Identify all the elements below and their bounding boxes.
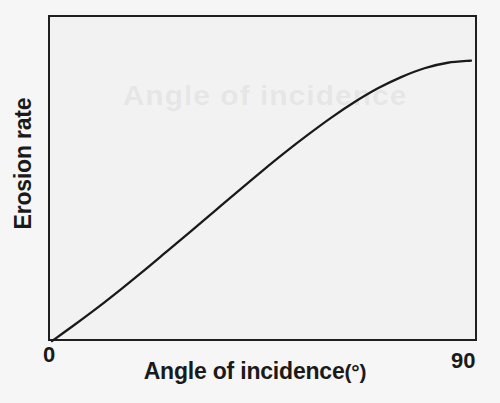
x-tick-label-max: 90 (451, 350, 475, 372)
y-axis-title: Erosion rate (10, 44, 37, 284)
x-tick-label-min: 0 (43, 344, 55, 366)
plot-area: Angle of incidence (48, 15, 477, 341)
erosion-rate-curve (52, 61, 471, 341)
x-axis-unit: (°) (345, 360, 367, 383)
figure-root: Angle of incidence Erosion rate Angle of… (0, 0, 500, 403)
x-axis-title-text: Angle of incidence (144, 358, 345, 384)
curve-canvas (50, 17, 479, 343)
x-axis-title: Angle of incidence(°) (100, 358, 410, 385)
